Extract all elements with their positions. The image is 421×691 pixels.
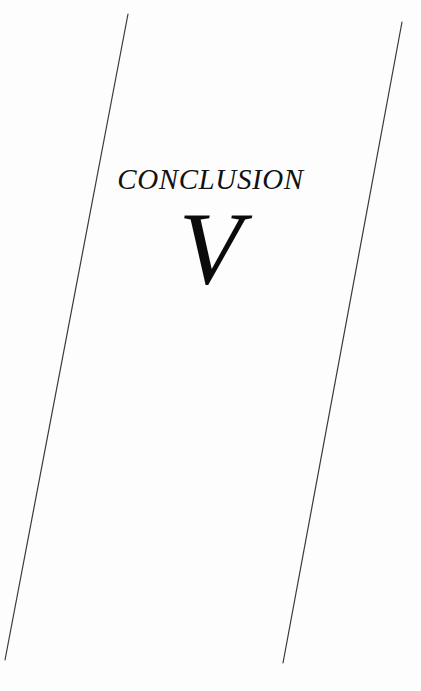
decorative-rules-group [0,0,421,691]
section-numeral: V [0,196,421,300]
right-diagonal-rule [283,22,402,663]
section-divider-page: CONCLUSION V [0,0,421,691]
left-diagonal-rule [5,14,128,660]
